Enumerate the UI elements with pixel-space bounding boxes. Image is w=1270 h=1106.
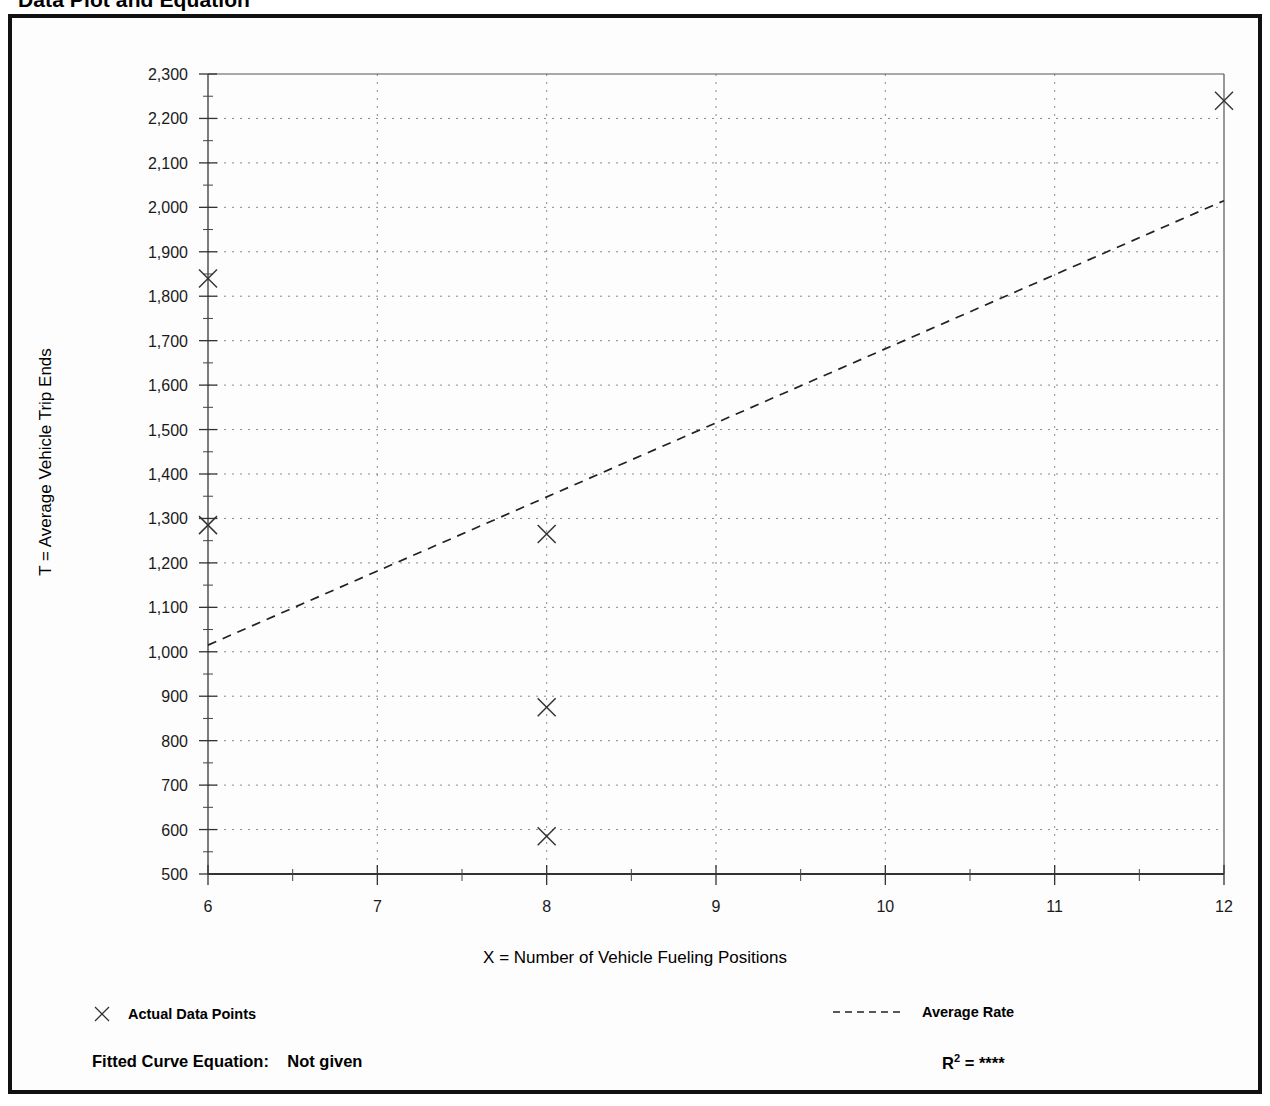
svg-text:2,300: 2,300 <box>148 66 188 83</box>
svg-text:6: 6 <box>204 898 213 915</box>
x-marker-icon <box>92 1004 112 1024</box>
svg-text:1,300: 1,300 <box>148 510 188 527</box>
dashed-line-icon <box>832 1007 906 1017</box>
svg-text:2,000: 2,000 <box>148 199 188 216</box>
scatter-plot: 5006007008009001,0001,1001,2001,3001,400… <box>12 18 1258 948</box>
svg-text:700: 700 <box>161 777 188 794</box>
svg-text:10: 10 <box>876 898 894 915</box>
svg-text:7: 7 <box>373 898 382 915</box>
legend-item-average-rate: Average Rate <box>832 1004 1014 1020</box>
svg-text:1,200: 1,200 <box>148 555 188 572</box>
r-squared-exponent: 2 <box>954 1052 960 1064</box>
svg-text:1,000: 1,000 <box>148 644 188 661</box>
svg-text:2,200: 2,200 <box>148 110 188 127</box>
svg-text:1,700: 1,700 <box>148 333 188 350</box>
chart-area: 5006007008009001,0001,1001,2001,3001,400… <box>12 18 1258 1090</box>
svg-text:1,400: 1,400 <box>148 466 188 483</box>
svg-text:12: 12 <box>1215 898 1233 915</box>
equation-row: Fitted Curve Equation: Not given R2 = **… <box>12 1048 1258 1088</box>
svg-text:1,800: 1,800 <box>148 288 188 305</box>
svg-text:2,100: 2,100 <box>148 155 188 172</box>
r-squared-label: R <box>942 1054 954 1072</box>
fitted-curve-equation-value: Not given <box>287 1052 362 1070</box>
legend-label-average-rate: Average Rate <box>922 1004 1014 1020</box>
svg-text:1,100: 1,100 <box>148 599 188 616</box>
svg-text:600: 600 <box>161 822 188 839</box>
legend-item-actual-data-points: Actual Data Points <box>92 1004 256 1024</box>
fitted-curve-equation-label: Fitted Curve Equation: <box>92 1052 269 1070</box>
svg-text:11: 11 <box>1046 898 1063 915</box>
r-squared-value: R2 = **** <box>942 1052 1005 1073</box>
legend-label-actual-data-points: Actual Data Points <box>128 1006 256 1022</box>
chart-legend: Actual Data Points Average Rate <box>12 1000 1258 1040</box>
fitted-curve-equation: Fitted Curve Equation: Not given <box>92 1052 362 1071</box>
svg-text:1,900: 1,900 <box>148 244 188 261</box>
svg-text:1,600: 1,600 <box>148 377 188 394</box>
page-title: Data Plot and Equation <box>18 0 250 12</box>
svg-text:500: 500 <box>161 866 188 883</box>
svg-text:1,500: 1,500 <box>148 422 188 439</box>
svg-text:900: 900 <box>161 688 188 705</box>
figure-frame: 5006007008009001,0001,1001,2001,3001,400… <box>8 14 1262 1094</box>
y-axis-title: T = Average Vehicle Trip Ends <box>36 232 56 692</box>
svg-text:800: 800 <box>161 733 188 750</box>
svg-text:9: 9 <box>712 898 721 915</box>
x-axis-title: X = Number of Vehicle Fueling Positions <box>12 948 1258 968</box>
svg-text:8: 8 <box>542 898 551 915</box>
r-squared-equals: = <box>965 1054 975 1072</box>
r-squared-number: **** <box>979 1054 1005 1072</box>
